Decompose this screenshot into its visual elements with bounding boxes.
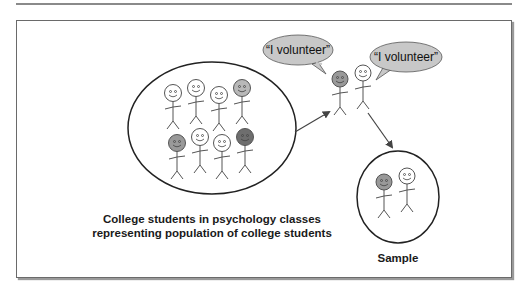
volunteer-figure-2	[355, 65, 371, 109]
population-circle	[128, 62, 296, 194]
sample-circle	[357, 151, 439, 243]
population-caption-line2: representing population of college stude…	[72, 226, 352, 240]
arrow-to-sample	[368, 113, 392, 147]
speech-bubble-1-text: “I volunteer”	[262, 43, 334, 57]
sample-group	[357, 151, 439, 243]
volunteer-figure-1	[332, 71, 348, 115]
population-group	[128, 62, 296, 194]
speech-bubble-2-text: “I volunteer”	[370, 50, 442, 64]
sample-label: Sample	[356, 252, 440, 264]
population-caption-line1: College students in psychology classes	[72, 212, 352, 226]
arrow-to-volunteers	[295, 112, 329, 132]
